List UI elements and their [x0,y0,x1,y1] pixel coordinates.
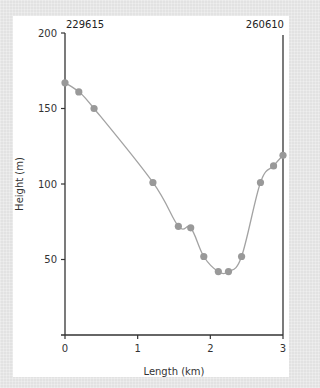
data-point [215,268,222,275]
x-tick-label: 2 [207,343,213,354]
left-endpoint-label: 229615 [66,19,104,30]
data-point [187,224,194,231]
data-point [61,79,68,86]
x-tick-label: 1 [134,343,140,354]
x-axis-title: Length (km) [143,366,204,377]
elevation-line [65,83,283,274]
elevation-chart: 501001502000123 229615 260610 Length (km… [0,0,298,388]
x-tick-label: 3 [280,343,286,354]
x-tick-label: 0 [62,343,68,354]
data-point [90,105,97,112]
data-point [270,162,277,169]
data-point [175,223,182,230]
data-point [225,268,232,275]
axes: 501001502000123 [38,28,286,355]
data-points [61,79,286,275]
y-tick-label: 50 [44,254,57,265]
data-point [149,179,156,186]
data-point [238,253,245,260]
y-tick-label: 200 [38,28,57,39]
data-point [200,253,207,260]
y-tick-label: 100 [38,179,57,190]
right-endpoint-label: 260610 [246,19,284,30]
data-point [75,88,82,95]
y-axis-title: Height (m) [14,157,25,211]
y-tick-label: 150 [38,103,57,114]
data-point [279,152,286,159]
data-point [257,179,264,186]
